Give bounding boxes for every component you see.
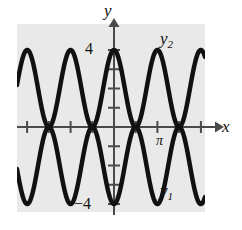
pi-tick-label: π bbox=[156, 134, 163, 148]
curve-label-y2-subscript: 2 bbox=[168, 38, 174, 50]
curve-label-y1-subscript: 1 bbox=[168, 190, 174, 202]
y-axis-label: y bbox=[104, 2, 112, 19]
trig-graph-figure bbox=[0, 0, 242, 230]
y-tick-label-minus-4: −4 bbox=[74, 196, 91, 212]
x-axis-label: x bbox=[222, 118, 230, 135]
curve-label-y2-base: y bbox=[160, 29, 168, 48]
curve-label-y1-base: y bbox=[160, 181, 168, 200]
y-tick-label-4: 4 bbox=[85, 41, 93, 57]
curve-label-y2: y2 bbox=[160, 30, 173, 50]
curve-label-y1: y1 bbox=[160, 182, 173, 202]
